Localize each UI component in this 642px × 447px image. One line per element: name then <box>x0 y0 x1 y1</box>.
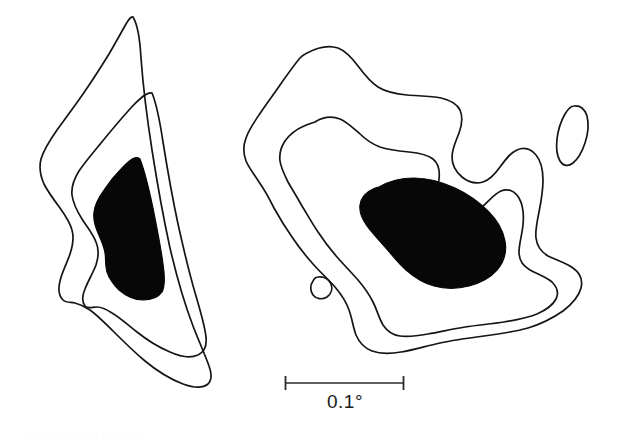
small-island-east-contour <box>557 106 588 166</box>
small-island-center-contour <box>311 277 332 299</box>
scale-bar <box>285 376 404 390</box>
east-peak-region <box>360 178 506 288</box>
contour-plot <box>0 0 642 447</box>
contour-figure: 0.1° partial cropped caption <box>0 0 642 447</box>
west-component <box>40 17 211 387</box>
west-peak-region <box>94 158 165 300</box>
scale-bar-label: 0.1° <box>285 391 405 413</box>
east-component <box>244 47 582 354</box>
caption-fragment: partial cropped caption <box>26 428 137 440</box>
